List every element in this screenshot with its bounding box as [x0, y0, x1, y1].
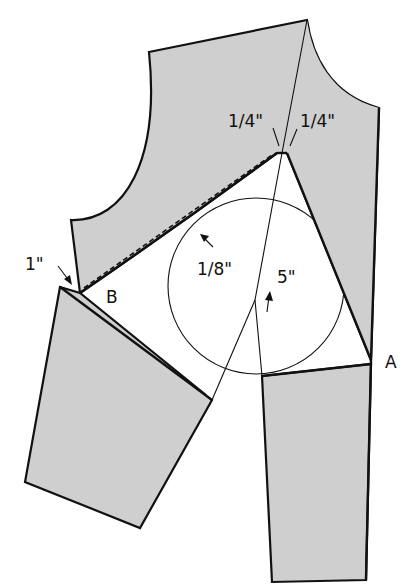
label-five-inch: 5" — [277, 267, 296, 287]
left-dart-line — [212, 300, 255, 400]
label-eighth-inch: 1/8" — [197, 259, 232, 279]
label-quarter-right: 1/4" — [300, 111, 335, 131]
one-inch-arrow — [58, 266, 72, 285]
label-one-inch: 1" — [25, 254, 44, 274]
label-quarter-left: 1/4" — [228, 111, 263, 131]
lower-right-piece — [262, 364, 371, 582]
label-point-a: A — [385, 352, 397, 372]
lower-left-piece — [25, 287, 212, 528]
pattern-diagram: 1/4" 1/4" 1" 1/8" 5" B A — [0, 0, 403, 584]
eighth-inch-arrow — [200, 234, 213, 247]
five-inch-arrow — [265, 291, 273, 312]
label-point-b: B — [106, 287, 118, 307]
